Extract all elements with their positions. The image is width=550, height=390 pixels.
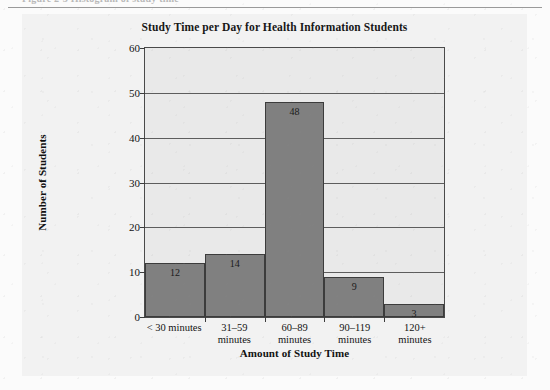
x-axis-tick-labels: < 30 minutes31–59minutes60–89minutes90–1… [144,322,445,346]
y-axis-title: Number of Students [36,47,50,318]
figure-panel: Study Time per Day for Health Informatio… [22,14,527,376]
y-axis-tick-mark [140,138,145,139]
gridline [145,93,444,94]
x-axis-tick-label: 120+minutes [385,322,445,346]
x-axis-tick-label-line2: minutes [264,334,324,346]
bar-value-label: 12 [146,267,204,278]
chart-title: Study Time per Day for Health Informatio… [22,21,527,33]
bar: 12 [145,263,205,317]
y-axis-tick-label: 50 [129,87,140,99]
y-axis-tick-mark [140,93,145,94]
y-axis-tick-label: 10 [129,266,140,278]
bar-value-label: 9 [325,281,383,292]
y-axis-tick-label: 40 [129,132,140,144]
bar: 3 [384,304,444,317]
bar-value-label: 14 [206,258,264,269]
plot-area: 0102030405060 12144893 [144,47,445,318]
bar: 14 [205,254,265,317]
bar: 48 [265,102,325,317]
x-axis-tick-label: < 30 minutes [144,322,204,346]
y-axis-tick-mark [140,183,145,184]
x-axis-tick-label-line1: 60–89 [281,322,307,333]
x-axis-tick-label-line2: minutes [204,334,264,346]
y-axis-tick-mark [140,227,145,228]
bar: 9 [324,277,384,317]
x-axis-tick-label: 60–89minutes [264,322,324,346]
y-axis-tick-mark [140,48,145,49]
horizontal-rule [8,7,542,8]
bar-value-label: 48 [266,106,324,117]
x-axis-tick-label-line1: 31–59 [221,322,247,333]
y-axis-tick-label: 30 [129,177,140,189]
x-axis-tick-label-line2: minutes [385,334,445,346]
figure-caption-clipped: Figure 2-3 Histogram of study time [0,0,550,7]
x-axis-tick-label: 90–119minutes [325,322,385,346]
x-axis-tick-label-line1: 120+ [404,322,426,333]
scanned-page: Figure 2-3 Histogram of study time Study… [0,0,550,390]
bar-value-label: 3 [385,308,443,319]
x-axis-tick-label-line1: 90–119 [339,322,370,333]
x-axis-tick-label-line2: minutes [325,334,385,346]
x-axis-tick-label-line1: < 30 minutes [147,322,202,333]
x-axis-title: Amount of Study Time [144,347,445,359]
x-axis-tick-label: 31–59minutes [204,322,264,346]
y-axis-tick-label: 20 [129,221,140,233]
figure-caption-text: Figure 2-3 Histogram of study time [22,0,179,4]
y-axis-tick-mark [140,317,145,318]
y-axis-tick-label: 60 [129,42,140,54]
